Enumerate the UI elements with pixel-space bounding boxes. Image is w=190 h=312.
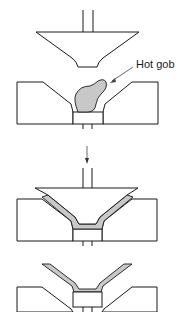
ejector-cup xyxy=(73,292,102,307)
ejected-glass-part xyxy=(42,264,132,292)
stage-2-pressing xyxy=(17,168,157,246)
stage-1-gob-loaded: Hot gob xyxy=(17,10,175,129)
down-arrow-icon xyxy=(85,158,89,164)
stage-3-ejection xyxy=(17,264,157,312)
mold-left xyxy=(17,287,73,312)
hot-gob-label: Hot gob xyxy=(136,58,175,70)
motion-arrow xyxy=(85,146,89,164)
mold-right xyxy=(102,287,157,312)
mold-right xyxy=(103,82,158,124)
mold-base-cup xyxy=(73,229,102,241)
mold-left xyxy=(17,82,73,124)
hot-gob xyxy=(75,80,107,112)
plunger xyxy=(36,32,139,67)
glass-pressing-diagram: Hot gob xyxy=(0,0,190,312)
hot-gob-arrowhead-icon xyxy=(110,78,116,83)
mold-base-cup xyxy=(73,112,103,124)
